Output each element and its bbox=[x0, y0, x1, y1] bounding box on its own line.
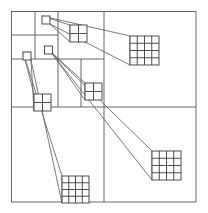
magnified-cell-4x4-top-right bbox=[130, 36, 159, 65]
magnified-cell-2x2-top bbox=[70, 25, 87, 42]
source-cell-3 bbox=[23, 52, 31, 60]
magnified-cell-4x4-bottom-right bbox=[152, 151, 181, 180]
magnified-cell-2x2-center bbox=[85, 83, 102, 100]
quadtree-canvas bbox=[0, 0, 208, 213]
quadtree-diagram-figure: Quadtree subdivision of a square region … bbox=[0, 0, 208, 213]
source-cell-2 bbox=[45, 46, 53, 54]
source-cells-group bbox=[23, 16, 53, 60]
magnified-cell-4x4-bottom-left bbox=[62, 176, 89, 203]
magnified-cell-2x2-left bbox=[34, 94, 51, 111]
source-cell-1 bbox=[42, 16, 50, 24]
